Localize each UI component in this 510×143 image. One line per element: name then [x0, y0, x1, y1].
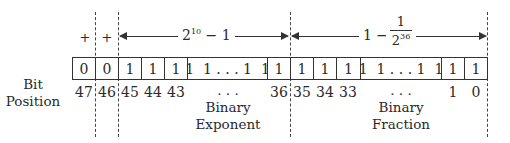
sign-bit-46: + — [100, 30, 114, 45]
exp-power: 10 — [191, 27, 201, 36]
bit-cell-exponent-middle: 1 1 . . . 1 1 — [187, 57, 268, 80]
bit-number-33: 33 — [336, 84, 360, 100]
bit-number-44: 44 — [141, 84, 165, 100]
bit-cell-fraction-middle: 1 1 . . . 1 1 — [360, 57, 442, 80]
arrowhead-left-icon — [119, 32, 127, 40]
bit-number-46: 46 — [95, 84, 119, 100]
arrowhead-right-icon — [281, 32, 289, 40]
fraction-label-line2: Fraction — [360, 116, 442, 133]
sign-bit-47: + — [78, 30, 92, 45]
row-label-line2: Position — [2, 93, 64, 110]
bit-number-43: 43 — [164, 84, 188, 100]
exponent-field-label: . . . Binary Exponent — [188, 82, 268, 133]
bit-number-35: 35 — [290, 84, 314, 100]
bit-cell-0: 1 — [464, 57, 488, 80]
exp-suffix: − 1 — [201, 27, 231, 43]
frac-numerator: 1 — [397, 14, 405, 29]
exponent-label-line1: Binary — [188, 99, 268, 116]
exp-base: 2 — [182, 27, 191, 43]
bit-cell-45: 1 — [118, 57, 142, 80]
bit-cell-33: 1 — [336, 57, 361, 80]
fraction-field-label: . . . Binary Fraction — [360, 82, 442, 133]
exponent-ellipsis: . . . — [188, 82, 268, 99]
bit-number-34: 34 — [313, 84, 337, 100]
arrowhead-left-icon — [291, 32, 299, 40]
fraction-range-fraction: 1 236 — [386, 14, 416, 48]
bit-position-label: Bit Position — [2, 76, 64, 110]
bit-number-45: 45 — [118, 84, 142, 100]
bit-number-1: 1 — [441, 84, 465, 100]
bit-number-36: 36 — [267, 84, 291, 100]
fraction-bar — [390, 30, 412, 31]
bit-cell-34: 1 — [313, 57, 337, 80]
exponent-range-label: 210 − 1 — [178, 27, 235, 43]
exponent-label-line2: Exponent — [188, 116, 268, 133]
fraction-label-line1: Binary — [360, 99, 442, 116]
bit-cell-1: 1 — [441, 57, 465, 80]
bit-number-0: 0 — [464, 84, 488, 100]
bit-cell-35: 1 — [290, 57, 314, 80]
row-label-line1: Bit — [2, 76, 64, 93]
frac-denominator: 236 — [392, 32, 410, 48]
bit-cell-44: 1 — [141, 57, 165, 80]
arrowhead-right-icon — [479, 32, 487, 40]
bit-cell-47: 0 — [72, 57, 96, 80]
bit-cell-46: 0 — [95, 57, 119, 80]
fraction-ellipsis: . . . — [360, 82, 442, 99]
bit-cell-36: 1 — [267, 57, 291, 80]
bit-number-47: 47 — [72, 84, 96, 100]
